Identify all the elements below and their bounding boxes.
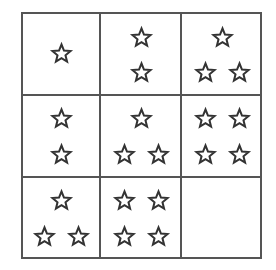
star-icon [52, 191, 71, 210]
star-icon [52, 109, 71, 128]
star-icon [115, 145, 134, 164]
star-icon [115, 227, 134, 246]
grid-line-horizontal [21, 176, 262, 178]
star-icon [69, 227, 88, 246]
star-icon [35, 227, 54, 246]
star-icon [149, 227, 168, 246]
star-icon [132, 28, 151, 47]
star-icon [132, 63, 151, 82]
star-icon [196, 63, 215, 82]
star-icon [52, 145, 71, 164]
star-icon [132, 109, 151, 128]
star-icon [230, 109, 249, 128]
star-icon [196, 145, 215, 164]
star-icon [213, 28, 232, 47]
star-icon [230, 145, 249, 164]
grid-line-vertical [99, 12, 101, 259]
star-icon [115, 191, 134, 210]
star-icon [52, 44, 71, 63]
star-icon [230, 63, 249, 82]
grid-line-vertical [180, 12, 182, 259]
star-icon [149, 191, 168, 210]
star-icon [196, 109, 215, 128]
grid-line-horizontal [21, 94, 262, 96]
star-icon [149, 145, 168, 164]
